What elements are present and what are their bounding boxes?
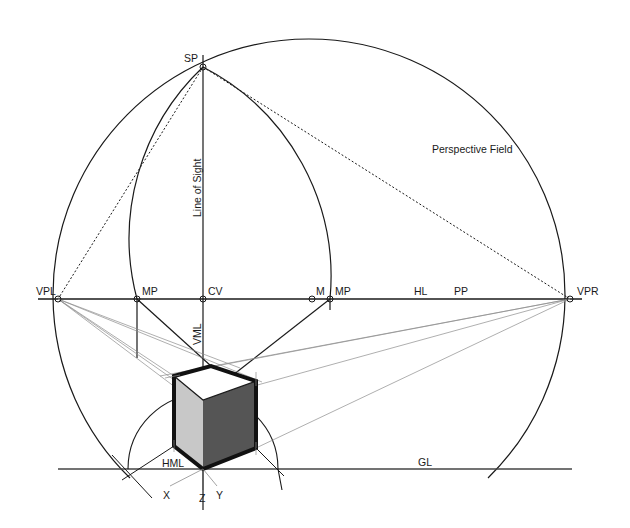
vpl-label: VPL: [36, 286, 56, 297]
mp-left-label: MP: [142, 286, 158, 297]
left-cross-line: [112, 455, 152, 498]
right-diagonal-line: [256, 448, 284, 476]
perspective-field-label: Perspective Field: [432, 144, 513, 155]
m-label: M: [316, 286, 325, 297]
axis-x-line: [170, 469, 203, 486]
line-of-sight-label: Line of Sight: [192, 159, 203, 217]
vpr-label: VPR: [577, 286, 599, 297]
axis-y-label: Y: [216, 490, 223, 501]
point-markers: [55, 64, 573, 302]
diagram-canvas: [0, 0, 630, 528]
axis-y-line: [203, 469, 217, 486]
axis-z-label: Z: [199, 493, 205, 504]
gl-label: GL: [418, 457, 432, 468]
sp-vpr-dotted-line: [203, 67, 570, 299]
measuring-line-right: [233, 299, 330, 375]
hl-label: HL: [414, 286, 427, 297]
mp-right-label: MP: [335, 286, 351, 297]
sp-label: SP: [184, 53, 198, 64]
axis-x-label: X: [163, 490, 170, 501]
pp-label: PP: [454, 286, 468, 297]
hml-label: HML: [162, 458, 184, 469]
cv-label: CV: [208, 286, 223, 297]
vml-label: VML: [192, 323, 203, 345]
mp-right-arc: [203, 67, 331, 310]
perspective-diagram: SP VPL VPR MP CV M MP HL PP GL HML Persp…: [0, 0, 630, 528]
